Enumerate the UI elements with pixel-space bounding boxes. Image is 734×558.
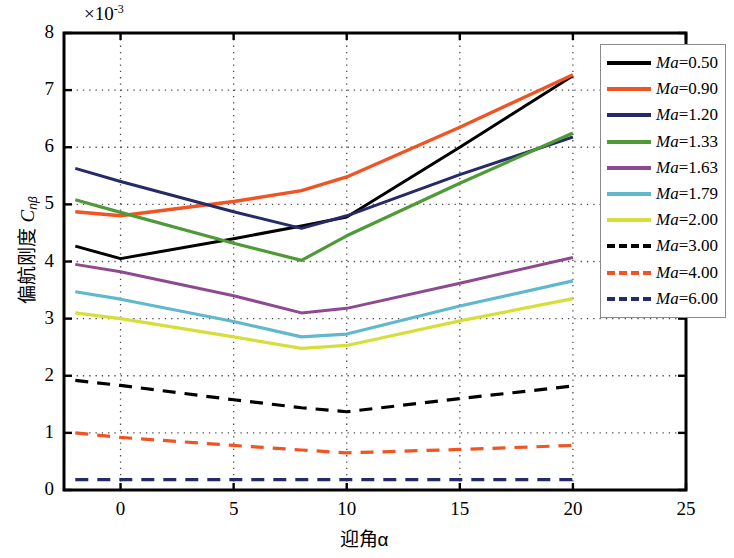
legend-item[interactable]: Ma=1.79: [605, 181, 721, 207]
legend-line-swatch: [607, 113, 651, 117]
x-tick-label: 25: [666, 498, 706, 520]
legend-item-label: Ma=1.63: [656, 158, 718, 178]
legend-line-swatch: [607, 271, 651, 275]
legend-item-symbol: Ma: [656, 263, 679, 282]
legend-line-swatch: [607, 87, 651, 91]
y-tick-label: 8: [18, 21, 54, 43]
y-axis-title-symbol: C: [17, 210, 38, 223]
legend-item-value: =0.50: [679, 53, 718, 72]
legend-item-value: =4.00: [679, 263, 718, 282]
legend-item[interactable]: Ma=0.50: [605, 50, 721, 76]
y-tick-label: 7: [18, 78, 54, 100]
legend-line-swatch: [607, 218, 651, 222]
y-axis-multiplier-exponent: -3: [114, 2, 124, 16]
chart-legend: Ma=0.50Ma=0.90Ma=1.20Ma=1.33Ma=1.63Ma=1.…: [600, 44, 726, 318]
legend-item[interactable]: Ma=1.33: [605, 129, 721, 155]
y-axis-multiplier: ×10-3: [84, 2, 124, 25]
legend-item-symbol: Ma: [656, 210, 679, 229]
legend-item-symbol: Ma: [656, 158, 679, 177]
legend-item-value: =1.33: [679, 132, 718, 151]
legend-item[interactable]: Ma=2.00: [605, 207, 721, 233]
y-tick-label: 2: [18, 364, 54, 386]
legend-item-symbol: Ma: [656, 132, 679, 151]
legend-item-symbol: Ma: [656, 53, 679, 72]
legend-item-symbol: Ma: [656, 79, 679, 98]
legend-item-label: Ma=4.00: [656, 263, 718, 283]
legend-line-swatch: [607, 166, 651, 170]
legend-item[interactable]: Ma=3.00: [605, 233, 721, 259]
legend-item-value: =3.00: [679, 236, 718, 255]
legend-item-label: Ma=1.20: [656, 105, 718, 125]
legend-item-value: =1.79: [679, 184, 718, 203]
y-axis-title-text: 偏航刚度: [17, 222, 38, 303]
x-tick-label: 15: [440, 498, 480, 520]
legend-item[interactable]: Ma=6.00: [605, 286, 721, 312]
legend-item[interactable]: Ma=0.90: [605, 76, 721, 102]
legend-item-value: =0.90: [679, 79, 718, 98]
x-tick-label: 5: [214, 498, 254, 520]
y-axis-title: 偏航刚度 Cnβ: [12, 140, 40, 360]
legend-item-label: Ma=6.00: [656, 289, 718, 309]
legend-item-symbol: Ma: [656, 236, 679, 255]
x-tick-label: 10: [327, 498, 367, 520]
legend-item-label: Ma=0.50: [656, 53, 718, 73]
legend-item-value: =1.63: [679, 158, 718, 177]
y-axis-multiplier-base: ×10: [84, 3, 114, 24]
legend-item-value: =1.20: [679, 105, 718, 124]
legend-item[interactable]: Ma=1.63: [605, 155, 721, 181]
legend-item-symbol: Ma: [656, 289, 679, 308]
legend-line-swatch: [607, 140, 651, 144]
legend-item-symbol: Ma: [656, 105, 679, 124]
legend-item-label: Ma=0.90: [656, 79, 718, 99]
legend-line-swatch: [607, 297, 651, 301]
legend-item-value: =2.00: [679, 210, 718, 229]
legend-item[interactable]: Ma=1.20: [605, 102, 721, 128]
legend-line-swatch: [607, 244, 651, 248]
legend-item-value: =6.00: [679, 289, 718, 308]
legend-item-label: Ma=2.00: [656, 210, 718, 230]
legend-item[interactable]: Ma=4.00: [605, 260, 721, 286]
y-tick-label: 1: [18, 421, 54, 443]
x-tick-label: 0: [101, 498, 141, 520]
x-tick-label: 20: [553, 498, 593, 520]
legend-line-swatch: [607, 192, 651, 196]
legend-line-swatch: [607, 61, 651, 65]
y-axis-title-subscript: nβ: [26, 196, 40, 210]
legend-item-label: Ma=1.79: [656, 184, 718, 204]
x-axis-title: 迎角α: [264, 524, 464, 551]
y-tick-label: 0: [18, 478, 54, 500]
legend-item-label: Ma=1.33: [656, 132, 718, 152]
legend-item-label: Ma=3.00: [656, 236, 718, 256]
legend-item-symbol: Ma: [656, 184, 679, 203]
